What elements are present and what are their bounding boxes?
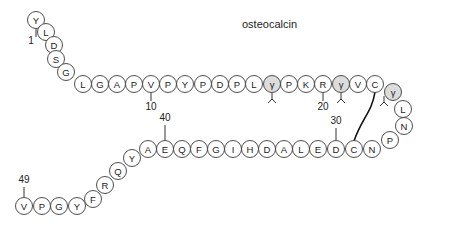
residue-letter: L — [43, 27, 48, 38]
residue-letter: Y — [182, 79, 189, 90]
residue-letter: Y — [33, 15, 40, 26]
residue-letter: C — [372, 79, 379, 90]
disulfide-bond — [354, 92, 375, 141]
residue-number: 10 — [145, 101, 157, 112]
residue-31: E — [310, 141, 327, 158]
residue-letter: L — [298, 144, 303, 155]
residue-12: Y — [177, 76, 194, 93]
residue-letter: H — [247, 144, 254, 155]
residue-5: G — [58, 64, 75, 81]
residue-number-labels: 11020304049 — [18, 29, 342, 197]
residue-47: G — [51, 198, 68, 215]
residue-letter: P — [200, 79, 206, 90]
residue-chain: YLDSGLGAPVPYPDPLγPKRγVCγLNPNCDELADHIGFQE… — [16, 12, 413, 215]
osteocalcin-sequence-diagram: osteocalcin 11020304049 YLDSGLGAPVPYPDPL… — [0, 0, 454, 226]
residue-39: Q — [174, 141, 191, 158]
residue-16: L — [246, 76, 263, 93]
residue-letter: L — [251, 79, 256, 90]
residue-letter: D — [51, 40, 58, 51]
residue-28: N — [364, 141, 381, 158]
residue-7: G — [92, 76, 109, 93]
residue-29: C — [346, 141, 363, 158]
residue-letter: L — [80, 79, 85, 90]
residue-letter: A — [145, 144, 152, 155]
residue-11: P — [160, 76, 177, 93]
residue-letter: P — [131, 79, 137, 90]
residue-45: F — [85, 191, 102, 208]
residue-number: 49 — [18, 174, 30, 185]
residue-34: D — [259, 141, 276, 158]
residue-44: R — [97, 177, 114, 194]
residue-number: 1 — [28, 35, 34, 46]
residue-letter: γ — [270, 79, 275, 90]
residue-48: P — [34, 198, 51, 215]
residue-letter: P — [234, 79, 240, 90]
residue-letter: V — [355, 79, 362, 90]
residue-23: C — [367, 76, 384, 93]
residue-40: E — [157, 141, 174, 158]
residue-letter: D — [217, 79, 224, 90]
residue-letter: I — [232, 144, 235, 155]
residue-letter: D — [264, 144, 271, 155]
residue-33: A — [276, 141, 293, 158]
residue-26: N — [396, 118, 413, 135]
residue-letter: P — [165, 79, 171, 90]
residue-38: F — [191, 141, 208, 158]
residue-letter: V — [21, 201, 28, 212]
residue-number: 20 — [317, 101, 329, 112]
residue-15: P — [229, 76, 246, 93]
residue-22: V — [350, 76, 367, 93]
residue-letter: R — [102, 180, 109, 191]
residue-letter: L — [400, 104, 405, 115]
residue-46: Y — [69, 198, 86, 215]
residue-21: γ — [333, 76, 350, 93]
residue-letter: E — [162, 144, 168, 155]
residue-14: D — [212, 76, 229, 93]
residue-letter: S — [53, 54, 59, 65]
residue-number: 40 — [159, 112, 171, 123]
residue-35: H — [242, 141, 259, 158]
residue-letter: γ — [391, 87, 396, 98]
residue-letter: F — [90, 194, 96, 205]
residue-10: V — [143, 76, 160, 93]
residue-13: P — [195, 76, 212, 93]
residue-letter: Q — [178, 144, 185, 155]
residue-letter: R — [320, 79, 327, 90]
residue-25: L — [395, 101, 412, 118]
residue-letter: F — [196, 144, 202, 155]
residue-letter: G — [55, 201, 62, 212]
residue-number: 30 — [330, 115, 342, 126]
gla-fork-icon — [268, 93, 276, 103]
residue-36: I — [225, 141, 242, 158]
residue-letter: C — [351, 144, 358, 155]
residue-letter: D — [333, 144, 340, 155]
residue-letter: Y — [129, 153, 136, 164]
residue-letter: K — [303, 79, 310, 90]
residue-6: L — [75, 76, 92, 93]
residue-42: Y — [124, 150, 141, 167]
residue-letter: G — [62, 67, 69, 78]
residue-letter: γ — [339, 79, 344, 90]
residue-41: A — [140, 141, 157, 158]
diagram-title: osteocalcin — [242, 18, 297, 30]
gla-fork-icon — [337, 93, 345, 103]
residue-43: Q — [110, 163, 127, 180]
residue-letter: P — [39, 201, 45, 212]
residue-27: P — [382, 132, 399, 149]
residue-37: G — [208, 141, 225, 158]
residue-letter: P — [286, 79, 292, 90]
residue-49: V — [16, 198, 33, 215]
residue-letter: A — [281, 144, 288, 155]
residue-19: K — [298, 76, 315, 93]
residue-letter: N — [369, 144, 376, 155]
residue-8: A — [109, 76, 126, 93]
residue-32: L — [293, 141, 310, 158]
residue-letter: V — [148, 79, 155, 90]
residue-letter: P — [387, 135, 393, 146]
residue-18: P — [281, 76, 298, 93]
residue-30: D — [328, 141, 345, 158]
residue-letter: Y — [74, 201, 81, 212]
residue-9: P — [126, 76, 143, 93]
residue-24: γ — [385, 84, 402, 101]
residue-letter: N — [401, 121, 408, 132]
